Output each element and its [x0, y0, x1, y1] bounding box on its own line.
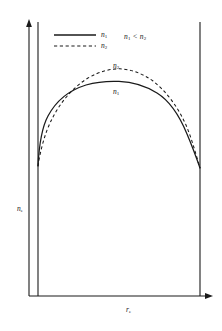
legend-label-n1: n1 [101, 31, 107, 39]
y-axis-title: ne [17, 205, 23, 213]
legend-relation-text: n1 < n2 [124, 33, 147, 41]
legend-label-n2: n2 [101, 42, 107, 50]
curve-annotation-n1: n1 [113, 88, 119, 96]
dashed-curve-n2 [38, 69, 200, 168]
figure-container: n1 n2 n1 < n2 n2 n1 ne re [0, 0, 222, 331]
x-axis-title: re [126, 306, 131, 314]
plot-canvas [0, 0, 222, 331]
curve-annotation-n2: n2 [113, 62, 119, 70]
x-axis-arrow [29, 293, 213, 299]
y-axis-arrow [26, 19, 32, 296]
